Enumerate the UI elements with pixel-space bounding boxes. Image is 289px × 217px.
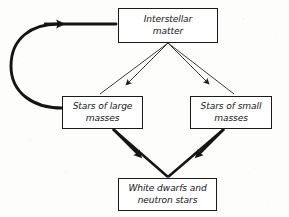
stars-of-large-masses-label-line2: masses — [86, 113, 120, 124]
interstellar-matter-label-line2: matter — [153, 26, 183, 37]
interstellar-matter-label-line1: Interstellar — [144, 14, 192, 25]
edge-interstellar-to-large — [100, 43, 168, 94]
white-dwarfs-and-neutron-stars-node: White dwarfs and neutron stars — [118, 178, 217, 211]
white-dwarfs-label-line2: neutron stars — [138, 195, 198, 206]
white-dwarfs-label-line1: White dwarfs and — [128, 183, 206, 194]
stars-of-small-masses-label-line1: Stars of small — [201, 101, 262, 112]
stars-of-small-masses-label-line2: masses — [214, 113, 248, 124]
stellar-cycle-diagram: Interstellar matter Stars of large masse… — [0, 0, 289, 217]
edge-large-to-remnants — [113, 129, 168, 177]
edge-small-to-remnants — [168, 129, 224, 177]
stars-of-small-masses-node: Stars of small masses — [190, 96, 272, 129]
edge-interstellar-to-small — [168, 43, 234, 94]
stars-of-large-masses-label-line1: Stars of large — [73, 101, 133, 112]
stars-of-large-masses-node: Stars of large masses — [62, 96, 143, 129]
interstellar-matter-node: Interstellar matter — [118, 8, 218, 43]
